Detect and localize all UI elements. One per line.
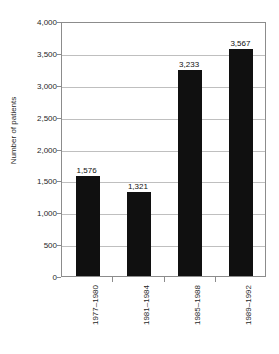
y-axis-tick-mark — [57, 181, 61, 182]
bar-value-label: 3,233 — [179, 60, 199, 69]
bar — [127, 192, 151, 276]
y-axis-tick-mark — [57, 150, 61, 151]
y-axis-tick-label: 3,500 — [17, 49, 57, 58]
x-axis-tick-mark — [112, 277, 113, 282]
x-axis-category-label: 1981–1984 — [142, 285, 151, 345]
y-axis-tick-mark — [57, 277, 61, 278]
y-axis-tick-label: 500 — [17, 241, 57, 250]
x-axis-category-label: 1989–1992 — [244, 285, 253, 345]
bar — [76, 176, 100, 277]
x-axis-category-label: 1985–1988 — [193, 285, 202, 345]
y-axis-tick-label: 4,000 — [17, 18, 57, 27]
bar-chart-figure: Number of patients 05001,0001,5002,0002,… — [0, 0, 279, 354]
bar — [178, 70, 202, 276]
y-axis-tick-mark — [57, 245, 61, 246]
y-axis-tick-mark — [57, 54, 61, 55]
bar-value-label: 3,567 — [230, 39, 250, 48]
y-axis-tick-mark — [57, 22, 61, 23]
y-axis-tick-label: 1,500 — [17, 177, 57, 186]
y-axis-tick-label: 1,000 — [17, 209, 57, 218]
plot-area — [61, 22, 266, 277]
x-axis-category-label: 1977–1980 — [91, 285, 100, 345]
bar-value-label: 1,576 — [77, 166, 97, 175]
y-axis-tick-mark — [57, 86, 61, 87]
y-axis-tick-label: 0 — [17, 273, 57, 282]
bar-value-label: 1,321 — [128, 182, 148, 191]
chart-title — [60, 0, 270, 3]
y-axis-tick-label: 2,000 — [17, 145, 57, 154]
bar — [229, 49, 253, 276]
y-axis-tick-mark — [57, 118, 61, 119]
y-axis-tick-mark — [57, 213, 61, 214]
x-axis-tick-mark — [164, 277, 165, 282]
y-axis-tick-label: 3,000 — [17, 81, 57, 90]
x-axis-tick-mark — [215, 277, 216, 282]
y-axis-tick-label: 2,500 — [17, 113, 57, 122]
